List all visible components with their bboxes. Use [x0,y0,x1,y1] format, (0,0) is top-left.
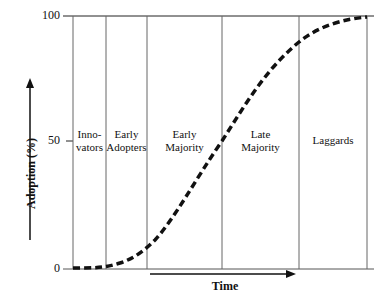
ytick-0: 0 [30,261,60,276]
segment-laggards: Laggards [299,134,367,147]
segment-early-majority: EarlyMajority [147,128,222,154]
ytick-100: 100 [30,8,60,23]
segment-innovators: Inno-vators [73,128,106,154]
segment-early-adopters: EarlyAdopters [106,128,147,154]
segment-late-majority: LateMajority [222,128,299,154]
y-axis-title: Adoption (%) [24,129,39,219]
x-axis-title: Time [200,279,250,294]
